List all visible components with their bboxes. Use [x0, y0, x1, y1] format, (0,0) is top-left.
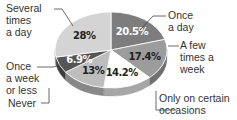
label-once-a-week-or-less: Once a week or less: [6, 60, 42, 96]
value-label: 28%: [73, 30, 96, 41]
label-once-a-day: Once a day: [168, 9, 196, 33]
value-label: 17.4%: [128, 51, 161, 62]
label-never: Never: [8, 97, 37, 109]
value-label: 14.2%: [106, 67, 139, 78]
label-a-few-times-a-week: A few times a week: [179, 39, 217, 75]
label-only-on-certain-occasions: Only on certain occasions: [159, 92, 233, 116]
value-label: 20.5%: [116, 26, 149, 37]
label-several-times-a-day: Several times a day: [6, 2, 45, 38]
pie-chart: 20.5%17.4%14.2%13%6.9%28% Several times …: [0, 0, 237, 120]
value-label: 6.9%: [66, 54, 92, 65]
value-label: 13%: [82, 65, 105, 76]
